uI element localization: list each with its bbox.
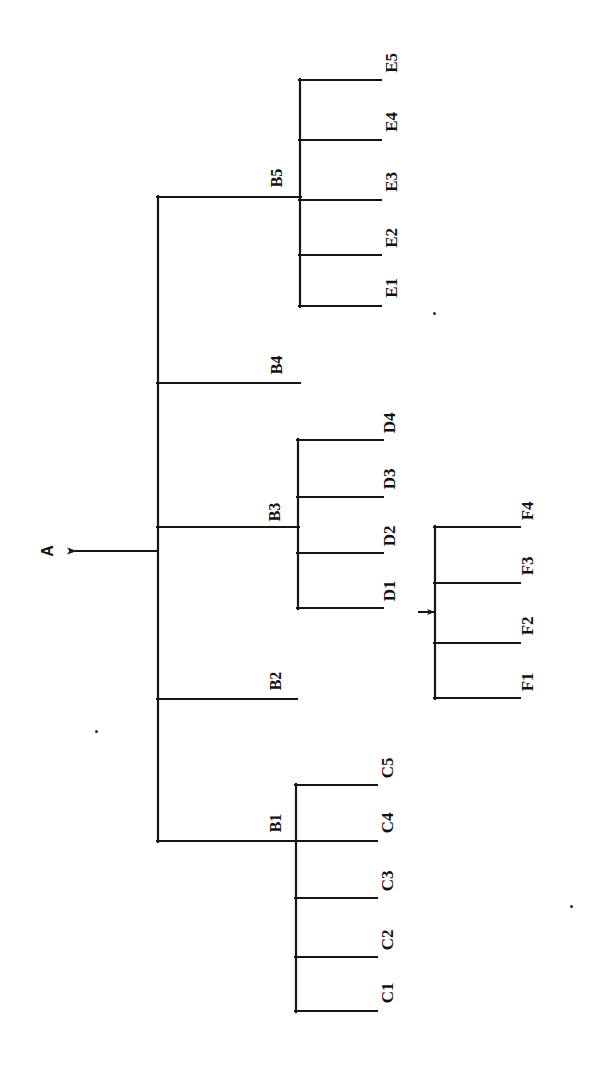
node-label-f4: F4 [518,502,538,520]
node-label-b1: B1 [267,814,285,832]
node-label-c1: C1 [378,983,398,1003]
node-label-b4: B4 [268,356,286,374]
node-label-b5: B5 [268,169,286,187]
node-label-c5: C5 [378,758,398,778]
node-label-c2: C2 [378,930,398,950]
node-label-d1: D1 [380,581,400,601]
node-label-c3: C3 [378,871,398,891]
node-label-d2: D2 [380,526,400,546]
node-label-d3: D3 [380,469,400,489]
scan-speck [95,730,98,733]
node-label-d4: D4 [380,413,400,433]
node-label-b2: B2 [267,672,285,690]
node-label-a: A [39,545,57,556]
node-label-e2: E2 [382,228,402,247]
node-label-f1: F1 [518,673,538,691]
node-label-f2: F2 [518,617,538,635]
scan-speck [433,312,436,315]
node-label-e4: E4 [382,112,402,131]
node-label-e1: E1 [382,278,402,297]
tree-diagram-canvas [0,0,601,1079]
scan-speck [570,905,573,908]
node-label-e5: E5 [382,53,402,72]
node-label-c4: C4 [378,813,398,833]
tree-diagram-page: A B5 B4 B3 B2 B1 E5 E4 E3 E2 E1 D4 D3 D2… [0,0,601,1079]
node-label-e3: E3 [382,172,402,191]
node-label-b3: B3 [266,503,284,521]
node-label-f3: F3 [518,557,538,575]
